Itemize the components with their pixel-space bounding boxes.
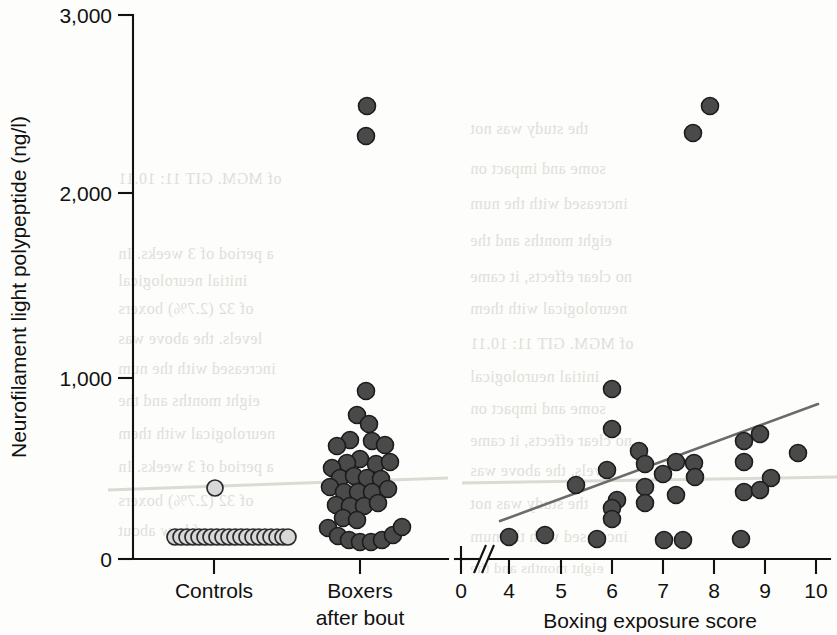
data-point (599, 462, 616, 479)
x-axis-title: Boxing exposure score (543, 609, 757, 632)
data-point-boxer (394, 519, 411, 536)
x-tick-label: 6 (606, 579, 618, 602)
data-point (604, 421, 621, 438)
data-point-control (280, 529, 296, 545)
data-point-boxer-outlier (358, 128, 375, 145)
data-point-boxer (382, 454, 399, 471)
data-point (501, 529, 518, 546)
panel-group-comparison: Controls Boxers after bout (133, 98, 448, 630)
x-tick-label: 9 (759, 579, 771, 602)
panel-exposure-regression: 0 4 5 6 7 8 9 10 Boxing exposure score (455, 98, 830, 633)
data-point (687, 469, 704, 486)
y-tick-label: 0 (100, 548, 112, 571)
x-tick-label: 5 (555, 579, 567, 602)
data-point (604, 511, 621, 528)
x-tick-label: 7 (657, 579, 669, 602)
x-category-label-boxers: Boxers (327, 579, 392, 602)
data-point (655, 466, 672, 483)
controls-dot-strip (167, 480, 296, 545)
data-point-boxer (349, 512, 366, 529)
data-point (752, 482, 769, 499)
data-point-boxer (329, 438, 346, 455)
data-point (568, 477, 585, 494)
boxers-dot-cluster (320, 98, 411, 551)
data-point-boxer (370, 495, 387, 512)
x-tick-label: 4 (503, 579, 515, 602)
y-axis: 3,000 2,000 1,000 0 Neurofilament light … (7, 4, 133, 571)
data-point-control-outlier (207, 480, 223, 496)
x-category-label-controls: Controls (175, 579, 253, 602)
y-tick-label: 3,000 (59, 4, 112, 27)
data-point (604, 381, 621, 398)
data-point (675, 532, 692, 549)
y-tick-label: 1,000 (59, 367, 112, 390)
y-axis-title: Neurofilament light polypeptide (ng/l) (7, 116, 30, 458)
data-point (733, 531, 750, 548)
x-tick-label: 10 (804, 579, 827, 602)
data-point (637, 479, 654, 496)
x-category-label-boxers-2: after bout (316, 606, 405, 629)
data-point-boxer (358, 383, 375, 400)
data-point (589, 531, 606, 548)
y-tick-label: 2,000 (59, 182, 112, 205)
data-point (685, 125, 702, 142)
data-point (790, 445, 807, 462)
data-point (752, 426, 769, 443)
figure-container: the study was not of MGM. GIT 11: 10.11 … (0, 0, 837, 635)
data-point (668, 487, 685, 504)
data-point-boxer (361, 416, 378, 433)
data-point (637, 456, 654, 473)
data-point (637, 495, 654, 512)
chart-svg: 3,000 2,000 1,000 0 Neurofilament light … (0, 0, 837, 635)
data-point-boxer (377, 437, 394, 454)
data-point (537, 527, 554, 544)
data-point (702, 98, 719, 115)
x-tick-label: 8 (708, 579, 720, 602)
x-tick-label: 0 (455, 579, 467, 602)
data-point-boxer-outlier (359, 98, 376, 115)
data-point (656, 532, 673, 549)
data-point (736, 454, 753, 471)
data-point (736, 433, 753, 450)
data-point (736, 484, 753, 501)
regression-line (500, 404, 818, 521)
